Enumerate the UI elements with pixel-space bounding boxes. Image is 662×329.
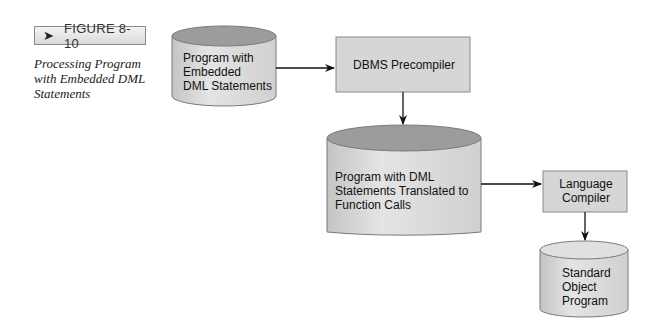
text-line: Program [562, 294, 611, 308]
source-program-label: Program with Embedded DML Statements [183, 51, 272, 93]
text-line: Standard [562, 266, 611, 280]
text-line: Embedded [183, 65, 272, 79]
precompiler-label: DBMS Precompiler [353, 58, 455, 72]
object-program-label: Standard Object Program [562, 266, 611, 308]
translated-program-label: Program with DML Statements Translated t… [335, 170, 468, 212]
compiler-label: Language Compiler [558, 177, 614, 205]
text-line: Statements Translated to [335, 184, 468, 198]
text-line: Function Calls [335, 198, 468, 212]
text-line: Compiler [558, 191, 614, 205]
text-line: DML Statements [183, 79, 272, 93]
text-line: Program with DML [335, 170, 468, 184]
text-line: Object [562, 280, 611, 294]
text-line: Program with [183, 51, 272, 65]
text-line: Language [558, 177, 614, 191]
